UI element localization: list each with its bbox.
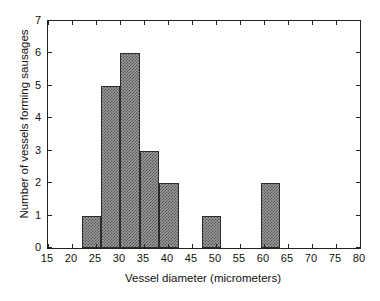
x-tick-mark — [168, 244, 169, 249]
x-tick-mark-top — [192, 20, 193, 25]
y-tick-label: 2 — [35, 176, 41, 188]
x-tick-mark-top — [120, 20, 121, 25]
x-tick-mark-top — [96, 20, 97, 25]
histogram-bar — [120, 53, 139, 248]
x-tick-mark — [144, 244, 145, 249]
x-tick-label: 25 — [89, 252, 102, 264]
x-tick-mark — [264, 244, 265, 249]
y-tick-mark-right — [356, 117, 361, 118]
x-tick-label: 20 — [65, 252, 78, 264]
x-tick-mark — [96, 244, 97, 249]
x-tick-mark — [288, 244, 289, 249]
histogram-bar — [159, 183, 179, 248]
y-tick-label: 0 — [35, 241, 41, 253]
histogram-bar — [202, 216, 221, 248]
x-tick-mark — [216, 244, 217, 249]
x-tick-mark — [336, 244, 337, 249]
x-tick-label: 30 — [113, 252, 126, 264]
y-tick-mark — [47, 20, 52, 21]
x-tick-mark-top — [336, 20, 337, 25]
y-tick-mark — [47, 85, 52, 86]
y-tick-mark-right — [356, 20, 361, 21]
y-tick-mark — [47, 117, 52, 118]
x-tick-label: 60 — [257, 252, 270, 264]
y-tick-mark-right — [356, 182, 361, 183]
y-tick-mark-right — [356, 215, 361, 216]
y-tick-mark — [47, 247, 52, 248]
y-tick-mark-right — [356, 52, 361, 53]
x-tick-mark-top — [264, 20, 265, 25]
y-tick-mark-right — [356, 150, 361, 151]
y-tick-mark — [47, 215, 52, 216]
x-tick-label: 65 — [281, 252, 294, 264]
y-tick-label: 5 — [35, 79, 41, 91]
x-tick-mark-top — [144, 20, 145, 25]
y-tick-label: 4 — [35, 111, 41, 123]
x-tick-mark — [72, 244, 73, 249]
x-tick-mark — [240, 244, 241, 249]
x-tick-mark-top — [168, 20, 169, 25]
x-axis-title: Vessel diameter (micrometers) — [47, 272, 359, 284]
x-tick-mark-top — [312, 20, 313, 25]
bars-layer — [48, 21, 360, 248]
x-tick-label: 55 — [233, 252, 246, 264]
x-tick-mark — [312, 244, 313, 249]
x-tick-label: 40 — [161, 252, 174, 264]
histogram-bar — [140, 151, 159, 248]
y-tick-mark — [47, 52, 52, 53]
y-tick-mark-right — [356, 247, 361, 248]
histogram-bar — [261, 183, 280, 248]
x-tick-mark-top — [216, 20, 217, 25]
y-tick-mark — [47, 182, 52, 183]
y-tick-mark — [47, 150, 52, 151]
plot-area — [47, 20, 361, 249]
y-tick-label: 7 — [35, 14, 41, 26]
x-tick-label: 50 — [209, 252, 222, 264]
y-tick-mark-right — [356, 85, 361, 86]
x-tick-label: 70 — [305, 252, 318, 264]
x-tick-mark — [192, 244, 193, 249]
x-tick-label: 35 — [137, 252, 150, 264]
x-tick-mark-top — [240, 20, 241, 25]
y-axis-title: Number of vessels forming sausages — [18, 14, 30, 234]
x-tick-label: 15 — [41, 252, 54, 264]
histogram-figure: 1520253035404550556065707580 01234567 Ve… — [0, 0, 380, 301]
x-tick-mark-top — [288, 20, 289, 25]
y-tick-label: 1 — [35, 209, 41, 221]
x-tick-mark-top — [72, 20, 73, 25]
x-tick-mark — [120, 244, 121, 249]
x-tick-label: 80 — [353, 252, 366, 264]
y-tick-label: 6 — [35, 46, 41, 58]
x-tick-label: 45 — [185, 252, 198, 264]
x-tick-label: 75 — [329, 252, 342, 264]
histogram-bar — [101, 86, 120, 248]
y-tick-label: 3 — [35, 144, 41, 156]
histogram-bar — [82, 216, 101, 248]
